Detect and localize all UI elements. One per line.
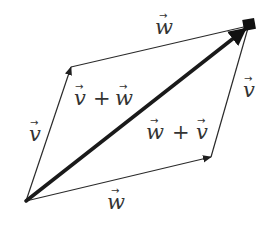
label-v-left: v → xyxy=(29,117,41,146)
label-w-plus-v: w → + v → xyxy=(146,115,208,144)
vector-arrow-icon: → xyxy=(111,185,119,196)
vector-arrow-icon: → xyxy=(30,117,38,128)
label-v-plus-w: v → + w → xyxy=(74,81,133,110)
vector-arrow-icon: → xyxy=(159,10,167,21)
vector-arrow-icon: → xyxy=(244,73,252,84)
vector-arrow-icon: → xyxy=(75,81,83,92)
sum-tip-arrowhead xyxy=(242,18,256,31)
label-w-top: w → xyxy=(155,10,173,39)
label-v-plus-w-plus: + xyxy=(93,86,111,110)
label-w-plus-v-plus: + xyxy=(172,120,190,144)
vector-addition-diagram: v → w → w → v → v → + w → w → + v → xyxy=(0,0,275,232)
vector-arrow-icon: → xyxy=(119,81,127,92)
vector-arrow-icon: → xyxy=(150,115,158,126)
label-v-right: v → xyxy=(243,73,255,102)
vector-arrow-icon: → xyxy=(197,115,205,126)
label-w-bottom: w → xyxy=(107,185,125,214)
